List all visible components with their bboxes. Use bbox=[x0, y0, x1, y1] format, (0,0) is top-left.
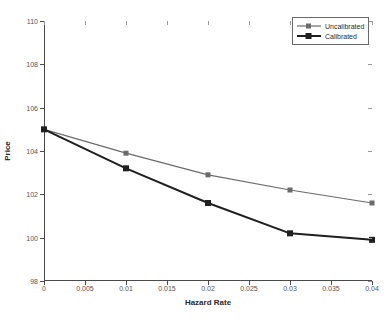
series-calibrated bbox=[41, 126, 375, 243]
x-tick-label: 0.03 bbox=[283, 285, 297, 292]
data-point-marker bbox=[287, 230, 293, 236]
data-point-marker bbox=[206, 172, 211, 177]
data-point-marker bbox=[41, 126, 47, 132]
y-tick-mark bbox=[40, 108, 44, 109]
y-tick-label: 108 bbox=[26, 61, 38, 68]
x-tick-label: 0.02 bbox=[201, 285, 215, 292]
x-tick-mark-top bbox=[126, 21, 127, 25]
x-tick-mark-top bbox=[372, 21, 373, 25]
x-tick-label: 0.035 bbox=[322, 285, 340, 292]
x-tick-mark-top bbox=[208, 21, 209, 25]
chart-figure: 9810010210410610811000.0050.010.0150.020… bbox=[0, 0, 388, 321]
series-canvas bbox=[44, 21, 372, 281]
legend-item-uncalibrated[interactable]: Uncalibrated bbox=[296, 21, 364, 31]
x-tick-mark-top bbox=[249, 21, 250, 25]
y-tick-mark bbox=[40, 64, 44, 65]
data-point-marker bbox=[288, 188, 293, 193]
legend-line-swatch-calibrated bbox=[296, 31, 322, 41]
y-tick-mark-right bbox=[368, 151, 372, 152]
series-line bbox=[44, 129, 372, 240]
legend: Uncalibrated Calibrated bbox=[292, 17, 369, 45]
y-tick-label: 98 bbox=[30, 278, 38, 285]
y-tick-mark bbox=[40, 151, 44, 152]
y-tick-label: 106 bbox=[26, 104, 38, 111]
y-tick-label: 100 bbox=[26, 234, 38, 241]
x-tick-mark-top bbox=[85, 21, 86, 25]
data-point-marker bbox=[123, 165, 129, 171]
legend-label-calibrated: Calibrated bbox=[325, 33, 357, 40]
data-point-marker bbox=[124, 151, 129, 156]
y-tick-mark-right bbox=[368, 238, 372, 239]
legend-label-uncalibrated: Uncalibrated bbox=[325, 23, 364, 30]
x-tick-mark-top bbox=[290, 21, 291, 25]
y-tick-label: 104 bbox=[26, 148, 38, 155]
data-point-marker bbox=[205, 200, 211, 206]
x-tick-label: 0.01 bbox=[119, 285, 133, 292]
data-point-marker bbox=[370, 201, 375, 206]
y-tick-mark bbox=[40, 194, 44, 195]
y-tick-label: 102 bbox=[26, 191, 38, 198]
x-axis-title: Hazard Rate bbox=[44, 299, 372, 307]
y-tick-mark-right bbox=[368, 64, 372, 65]
legend-item-calibrated[interactable]: Calibrated bbox=[296, 31, 364, 41]
legend-line-swatch-uncalibrated bbox=[296, 21, 322, 31]
y-axis-title: Price bbox=[4, 141, 12, 161]
x-tick-label: 0.015 bbox=[158, 285, 176, 292]
plot-area: 9810010210410610811000.0050.010.0150.020… bbox=[44, 21, 372, 281]
x-tick-label: 0.005 bbox=[76, 285, 94, 292]
series-line bbox=[44, 129, 372, 203]
y-tick-label: 110 bbox=[27, 18, 38, 25]
y-tick-mark-right bbox=[368, 194, 372, 195]
x-tick-mark-top bbox=[44, 21, 45, 25]
x-tick-label: 0.025 bbox=[240, 285, 258, 292]
series-uncalibrated bbox=[44, 129, 375, 205]
x-tick-label: 0.04 bbox=[365, 285, 379, 292]
x-tick-mark-top bbox=[167, 21, 168, 25]
x-tick-label: 0 bbox=[42, 285, 46, 292]
y-tick-mark bbox=[40, 238, 44, 239]
y-tick-mark-right bbox=[368, 108, 372, 109]
